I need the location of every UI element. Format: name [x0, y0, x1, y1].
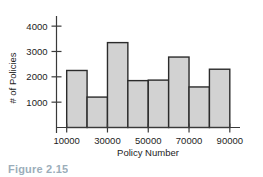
- x-tick-label: 90000: [217, 135, 243, 146]
- x-tick-label: 50000: [135, 135, 161, 146]
- x-axis-title: Policy Number: [117, 147, 179, 158]
- histogram-bar: [87, 97, 107, 127]
- figure-caption: Figure 2.15: [8, 163, 68, 177]
- y-tick-label: 3000: [26, 46, 47, 57]
- y-tick-label: 1000: [26, 97, 47, 108]
- x-tick-label: 30000: [94, 135, 120, 146]
- histogram-bar: [209, 69, 229, 127]
- y-tick-label: 2000: [26, 71, 47, 82]
- histogram-svg: 1000200030004000 10000300005000070000900…: [0, 0, 263, 160]
- histogram-bar: [169, 57, 189, 127]
- histogram-bar: [189, 87, 209, 128]
- bar-series: [67, 43, 230, 128]
- x-tick-label: 70000: [176, 135, 202, 146]
- y-tick-label: 4000: [26, 21, 47, 32]
- x-tick-label: 10000: [53, 135, 79, 146]
- histogram-plot: 1000200030004000 10000300005000070000900…: [0, 0, 263, 160]
- histogram-bar: [148, 80, 168, 127]
- y-axis-title: # of Policies: [7, 52, 18, 103]
- histogram-bar: [107, 43, 127, 128]
- histogram-bar: [128, 81, 148, 128]
- figure-container: 1000200030004000 10000300005000070000900…: [0, 0, 263, 177]
- histogram-bar: [67, 70, 87, 127]
